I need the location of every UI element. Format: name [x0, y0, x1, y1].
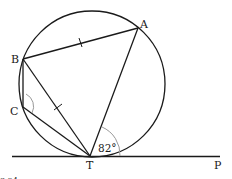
label-t: T [86, 159, 94, 172]
segment-ct [23, 107, 90, 156]
figure-caption-fragment: 3.24 [0, 176, 18, 179]
tick-mark-ab [79, 38, 82, 47]
label-a: A [139, 18, 149, 31]
label-b: B [11, 53, 19, 66]
label-c: C [10, 105, 18, 118]
geometry-diagram: A B C T P 82° 3.24 [0, 0, 232, 179]
angle-label-atp: 82° [98, 142, 117, 154]
label-p: P [214, 159, 222, 172]
